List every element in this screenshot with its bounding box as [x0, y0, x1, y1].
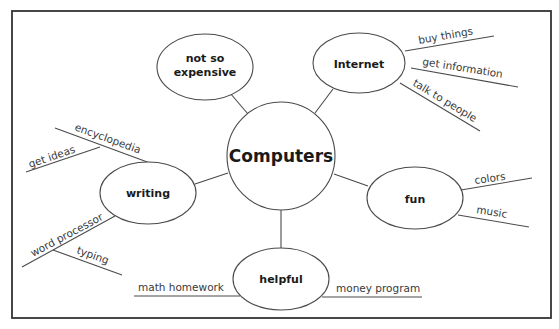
- node-label-internet: Internet: [334, 58, 385, 71]
- branch-label-get-information: get information: [422, 55, 504, 80]
- branch-label-typing: typing: [75, 244, 110, 267]
- center-label: Computers: [229, 146, 333, 166]
- connector-fun: [334, 174, 368, 186]
- branch-label-buy-things: buy things: [417, 25, 474, 46]
- connector-writing: [195, 173, 228, 184]
- node-label-not-so-expensive-line2: expensive: [174, 66, 237, 79]
- branch-label-music: music: [476, 203, 509, 220]
- connector-not-so-expensive: [230, 93, 248, 114]
- concept-web-diagram: Computers not so expensive Internet writ…: [0, 0, 559, 329]
- node-label-fun: fun: [405, 193, 425, 206]
- branch-label-get-ideas: get ideas: [27, 143, 77, 170]
- node-label-not-so-expensive-line1: not so: [186, 52, 225, 65]
- node-label-writing: writing: [126, 187, 170, 200]
- node-label-helpful: helpful: [259, 273, 302, 286]
- branch-label-money-program: money program: [336, 282, 420, 294]
- connector-internet: [315, 89, 333, 113]
- branch-label-talk-to-people: talk to people: [411, 76, 479, 124]
- branch-label-math-homework: math homework: [138, 281, 225, 293]
